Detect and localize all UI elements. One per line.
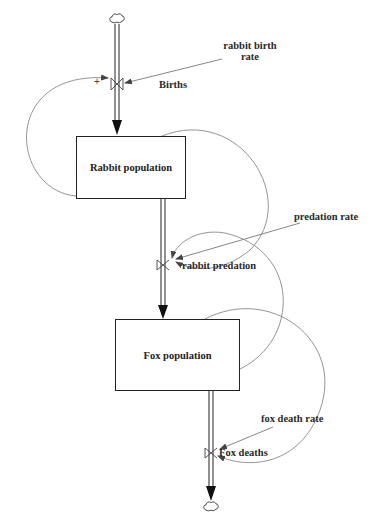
stock-label: Fox population bbox=[144, 350, 212, 361]
fox-deaths-valve-icon[interactable] bbox=[205, 448, 217, 458]
flow-label-rabbit-predation[interactable]: rabbit predation bbox=[182, 260, 256, 271]
source-cloud-icon bbox=[110, 14, 125, 23]
stock-label: Rabbit population bbox=[90, 162, 172, 173]
predation-valve-icon[interactable] bbox=[157, 260, 169, 270]
aux-label-line: rabbit birth bbox=[220, 40, 280, 51]
aux-predation-rate[interactable]: predation rate bbox=[294, 211, 358, 222]
sink-cloud-icon bbox=[204, 502, 219, 511]
births-flow-pipe[interactable] bbox=[112, 24, 122, 135]
aux-rabbit-birth-rate[interactable]: rabbit birth rate bbox=[220, 40, 280, 62]
stock-rabbit-population[interactable]: Rabbit population bbox=[76, 136, 186, 199]
link-fox-death-rate-to-deaths bbox=[220, 427, 273, 449]
link-predation-rate-to-predation bbox=[176, 223, 300, 259]
aux-label-line: rate bbox=[220, 51, 280, 62]
stock-fox-population[interactable]: Fox population bbox=[115, 319, 240, 391]
flow-label-fox-deaths[interactable]: Fox deaths bbox=[219, 447, 268, 458]
births-valve-icon[interactable] bbox=[111, 78, 123, 90]
flow-label-births[interactable]: Births bbox=[159, 79, 187, 90]
fox-deaths-flow-pipe[interactable] bbox=[206, 391, 216, 501]
polarity-plus-sign: + bbox=[94, 76, 100, 87]
aux-fox-death-rate[interactable]: fox death rate bbox=[261, 413, 323, 424]
predation-flow-pipe[interactable] bbox=[158, 199, 168, 319]
